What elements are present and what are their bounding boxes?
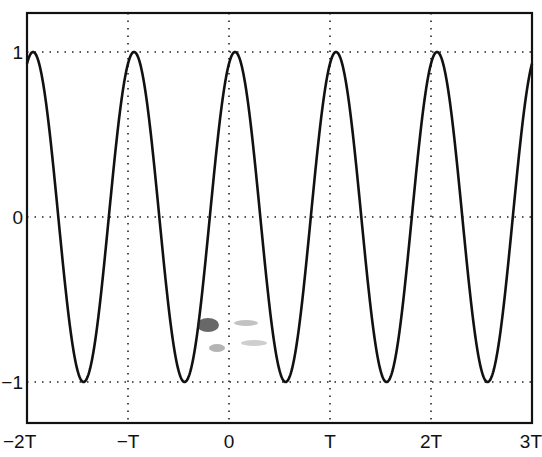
y-tick-label: −1 [1,372,23,393]
chart: −2T−T0T2T3T 10−1 [0,0,542,457]
scan-smudge [197,318,267,352]
y-tick-labels: 10−1 [1,42,23,393]
plot-frame [27,13,532,423]
x-tick-label: −2T [3,431,37,452]
y-tick-label: 1 [12,42,23,63]
x-tick-label: 0 [224,431,235,452]
x-tick-labels: −2T−T0T2T3T [3,431,542,452]
x-tick-label: 2T [420,431,443,452]
x-tick-label: −T [117,431,140,452]
y-tick-label: 0 [12,207,23,228]
x-tick-label: T [324,431,336,452]
grid-lines [27,13,532,423]
x-tick-label: 3T [520,431,542,452]
